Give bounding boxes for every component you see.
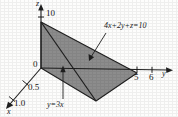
x-tick-label-05: 0.5 <box>28 83 39 92</box>
x-tick-label-10: 1.0 <box>14 99 25 108</box>
figure-canvas <box>0 0 178 117</box>
boundary-line-label: y=3x <box>47 101 64 109</box>
z-tick-label-10: 10 <box>46 9 55 18</box>
plane-surface <box>41 22 137 101</box>
y-tick-label-5: 5 <box>134 73 139 82</box>
plane-equation-label: 4x+2y+z=10 <box>104 22 146 30</box>
x-axis-label: x <box>7 108 11 116</box>
y-tick-label-6: 6 <box>149 73 154 82</box>
math-figure-3d-plane: z 10 0 5 6 y 0.5 1.0 x 4x+2y+z=10 y=3x <box>0 0 178 117</box>
y-axis-label: y <box>162 70 166 78</box>
y-axis-arrowhead <box>166 67 173 73</box>
origin-label: 0 <box>33 60 38 69</box>
z-axis-label: z <box>36 0 39 8</box>
